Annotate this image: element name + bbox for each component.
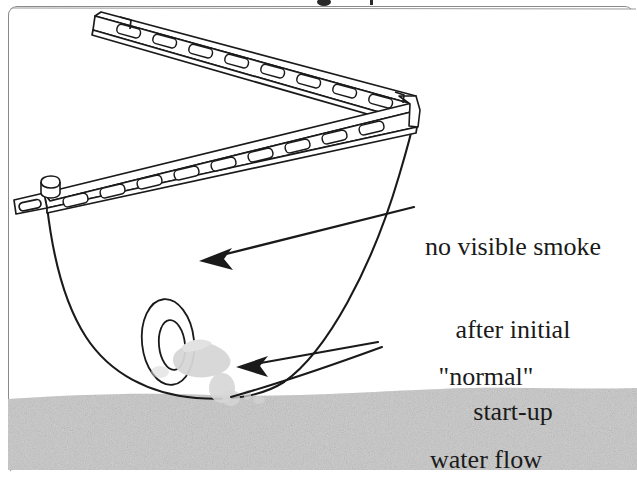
label-smoke-line-1: no visible smoke <box>392 233 634 261</box>
perforated-rail-upper <box>92 12 416 126</box>
label-flow-line-2: water flow <box>368 446 604 474</box>
scan-artifact-top <box>12 0 636 9</box>
label-normal-water-flow: "normal" water flow <box>368 308 604 486</box>
label-flow-line-1: "normal" <box>368 363 604 391</box>
rail-corner-knob <box>41 176 60 198</box>
figure-canvas: no visible smoke after initial start-up … <box>0 0 637 486</box>
perforated-rail-lower <box>14 103 419 214</box>
leader-flow <box>231 342 382 397</box>
leader-smoke <box>199 207 414 270</box>
